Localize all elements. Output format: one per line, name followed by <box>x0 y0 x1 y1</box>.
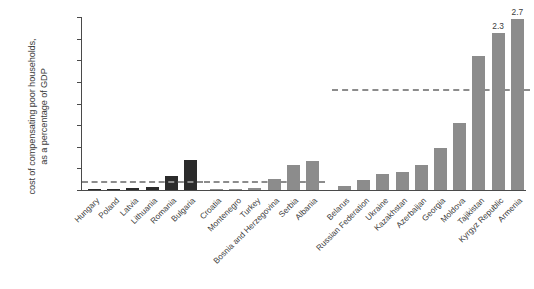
bar <box>338 186 351 190</box>
y-axis-tick <box>77 104 81 105</box>
reference-line <box>332 89 530 91</box>
y-axis-line <box>81 17 82 190</box>
bar <box>472 56 485 190</box>
y-axis-tick <box>77 147 81 148</box>
bar: 2.7 <box>511 19 524 190</box>
y-axis-tick <box>77 82 81 83</box>
bar-value-label: 2.7 <box>511 7 523 17</box>
y-axis-tick <box>77 168 81 169</box>
y-axis-tick <box>77 190 81 191</box>
y-axis-tick <box>77 125 81 126</box>
y-axis-tick <box>77 17 81 18</box>
x-axis-label-text: Hungary <box>73 194 103 224</box>
y-axis-tick <box>77 60 81 61</box>
bar-value-label: 2.3 <box>492 21 504 31</box>
y-axis-title: cost of compensating poor households, as… <box>27 17 50 217</box>
bar <box>88 189 101 190</box>
y-axis-tick <box>77 39 81 40</box>
chart-root: cost of compensating poor households, as… <box>0 0 534 289</box>
bar <box>210 189 223 190</box>
plot-area: 1.61.41.21.00.80.60.40.20 2.32.7 <box>82 17 526 190</box>
bar: 2.3 <box>492 33 505 190</box>
